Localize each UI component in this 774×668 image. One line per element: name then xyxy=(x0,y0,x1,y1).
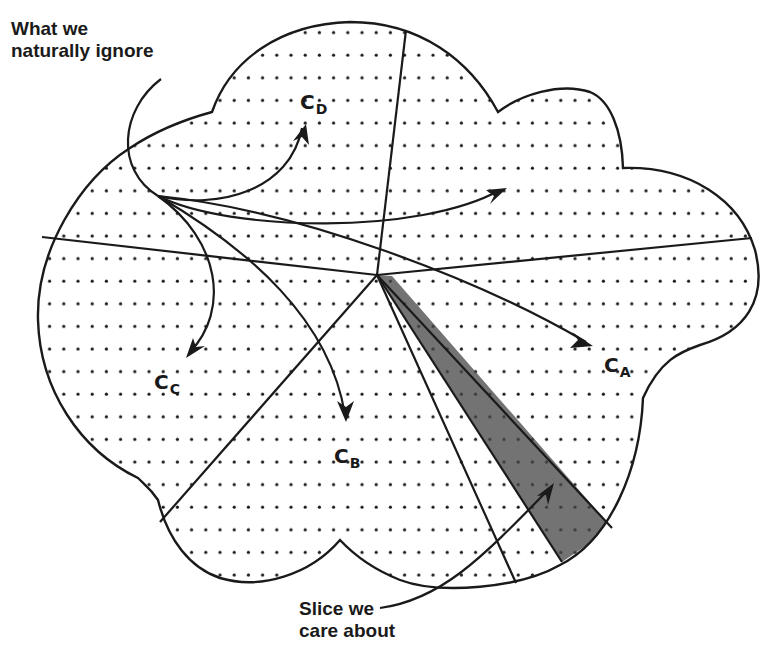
diagram-canvas xyxy=(0,0,774,668)
region-letter: C xyxy=(334,444,349,468)
region-label-c: CC xyxy=(154,372,180,399)
region-label-a: CA xyxy=(604,355,631,382)
region-label-d: CD xyxy=(300,92,327,119)
region-subscript: A xyxy=(620,364,631,380)
cloud-diagram: What we naturally ignore Slice we care a… xyxy=(0,0,774,668)
region-letter: C xyxy=(154,370,169,394)
region-subscript: B xyxy=(350,455,361,471)
ignore-label: What we naturally ignore xyxy=(11,18,154,62)
slice-label-line-2: care about xyxy=(299,620,395,642)
region-letter: C xyxy=(604,353,619,377)
region-subscript: D xyxy=(316,101,328,117)
region-subscript: C xyxy=(170,381,180,397)
region-label-b: CB xyxy=(334,446,360,473)
ignore-label-line-1: What we xyxy=(11,18,154,40)
slice-label: Slice we care about xyxy=(299,598,395,642)
slice-label-line-1: Slice we xyxy=(299,598,395,620)
ignore-label-line-2: naturally ignore xyxy=(11,40,154,62)
dotted-fill xyxy=(0,0,774,668)
region-letter: C xyxy=(300,90,315,114)
